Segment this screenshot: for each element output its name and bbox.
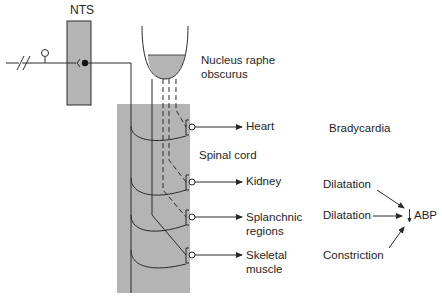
nucleus-raphe-label: Nucleus raphe obscurus: [201, 53, 275, 81]
target-label-skeletal-line2: muscle: [246, 262, 287, 276]
target-label-splanchnic: Splanchnic regions: [246, 210, 302, 238]
arrow-dilatation1-icon: [377, 190, 404, 208]
target-label-skeletal: Skeletal muscle: [246, 248, 287, 276]
nucleus-raphe-label-line2: obscurus: [201, 67, 275, 81]
bradycardia-label: Bradycardia: [329, 122, 390, 135]
arrow-constriction-icon: [389, 227, 404, 248]
receptor-icon: [42, 50, 49, 57]
target-label-kidney: Kidney: [246, 175, 281, 188]
nucleus-raphe-fill: [148, 55, 185, 79]
target-label-skeletal-line1: Skeletal: [246, 248, 287, 262]
nucleus-raphe-label-line1: Nucleus raphe: [201, 53, 275, 67]
down-arrow-icon: [408, 209, 411, 222]
effect-label-constriction: Constriction: [323, 249, 384, 262]
target-label-heart: Heart: [246, 120, 274, 133]
nts-neuron-dot-icon: [82, 60, 88, 66]
target-label-splanchnic-line1: Splanchnic: [246, 210, 302, 224]
effect-arrows: [373, 190, 404, 248]
abp-label: ABP: [414, 209, 437, 222]
effect-label-dilatation-2: Dilatation: [323, 209, 371, 222]
nts-label: NTS: [70, 4, 94, 17]
spinal-cord-label: Spinal cord: [199, 149, 257, 162]
target-label-splanchnic-line2: regions: [246, 224, 302, 238]
target-arrows: [195, 127, 242, 255]
effect-label-dilatation-1: Dilatation: [323, 178, 371, 191]
spinal-cord-region: [117, 104, 190, 293]
